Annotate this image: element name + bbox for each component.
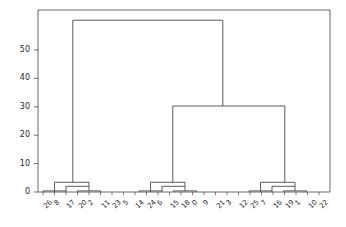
dendrogram-figure: 0 10 20 30 40 50 26 8 17 20 2 11 23 5 14… bbox=[0, 0, 346, 227]
y-tick-label-30: 30 bbox=[8, 103, 30, 111]
link-root bbox=[73, 20, 223, 182]
y-tick-marks bbox=[34, 50, 38, 192]
dendrogram-plot-area bbox=[0, 0, 346, 227]
link-right-c bbox=[272, 186, 295, 191]
y-tick-label-50: 50 bbox=[8, 46, 30, 54]
dendrogram-links bbox=[43, 20, 307, 192]
y-tick-label-0: 0 bbox=[8, 188, 30, 196]
axes-spines bbox=[38, 10, 330, 192]
link-super-right bbox=[173, 106, 285, 182]
y-tick-label-40: 40 bbox=[8, 74, 30, 82]
y-tick-label-20: 20 bbox=[8, 131, 30, 139]
link-mid-c bbox=[162, 186, 185, 191]
y-tick-label-10: 10 bbox=[8, 160, 30, 168]
link-left-c bbox=[66, 186, 89, 191]
